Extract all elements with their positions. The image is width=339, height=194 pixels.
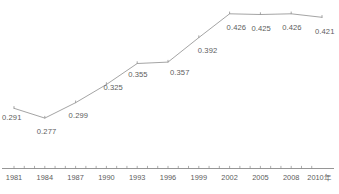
data-value-label: 0.355: [128, 71, 148, 79]
data-value-label: 0.425: [251, 25, 271, 33]
data-value-label: 0.357: [170, 69, 190, 77]
data-value-label: 0.426: [282, 24, 302, 32]
x-axis-tick-label: 1981: [6, 174, 22, 181]
x-axis-tick-label: 1987: [67, 174, 83, 181]
data-value-label: 0.426: [227, 24, 247, 32]
x-axis-tick-label: 1993: [129, 174, 145, 181]
line-chart-figure: 0.2910.2770.2990.3250.3550.3570.3920.426…: [0, 0, 339, 194]
x-axis-tick-label: 2010年: [307, 174, 330, 181]
data-value-label: 0.299: [69, 112, 89, 120]
data-value-label: 0.325: [103, 84, 123, 92]
x-axis-tick-label: 1984: [37, 174, 53, 181]
data-value-label: 0.291: [2, 114, 22, 122]
data-value-label: 0.392: [198, 47, 218, 55]
x-axis-tick-label: 2002: [221, 174, 237, 181]
x-axis-tick-label: 1999: [191, 174, 207, 181]
x-axis-tick-label: 1990: [98, 174, 114, 181]
data-point-markers: [14, 12, 322, 119]
data-value-label: 0.277: [37, 128, 57, 136]
x-axis-tick-label: 2008: [283, 174, 299, 181]
x-axis-tick-label: 2005: [252, 174, 268, 181]
data-series-line: [14, 14, 322, 118]
data-value-label: 0.421: [315, 28, 335, 36]
x-axis-tick-label: 1996: [160, 174, 176, 181]
